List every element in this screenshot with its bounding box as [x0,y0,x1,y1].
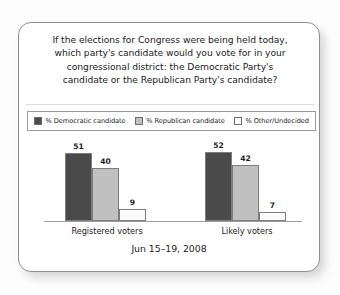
bar-set: 52 42 7 [205,141,286,221]
legend-swatch-icon [135,117,143,125]
poll-result-card: If the elections for Congress were being… [18,22,320,272]
bar-group-registered-voters: 51 40 9 Registered voters [65,141,169,221]
bar-group-likely-voters: 52 42 7 Likely voters [205,141,309,221]
category-label: Registered voters [47,226,167,236]
title-line: candidate or the Republican Party's cand… [33,73,307,86]
bar-republican [92,168,119,221]
title-line: If the elections for Congress were being… [33,33,307,46]
chart-baseline-axis [44,221,302,222]
page-background: If the elections for Congress were being… [0,0,340,295]
title-line: which party's candidate would you vote f… [33,46,307,59]
bar-value-label: 9 [113,198,153,207]
legend-item-democratic: % Democratic candidate [34,117,126,125]
title-line: congressional district: the Democratic P… [33,60,307,73]
survey-date-footer: Jun 15–19, 2008 [19,243,319,254]
legend-label: % Republican candidate [146,117,225,125]
bar-column: 9 [119,141,146,221]
bar-republican [232,165,259,221]
legend-label: % Other/Undecided [245,117,309,125]
bar-column: 40 [92,141,119,221]
bar-chart-plot-area: 51 40 9 Registered voters [19,141,319,233]
chart-legend: % Democratic candidate % Republican cand… [27,111,316,131]
legend-item-republican: % Republican candidate [135,117,225,125]
legend-label: % Democratic candidate [46,117,126,125]
bar-set: 51 40 9 [65,141,146,221]
bar-column: 52 [205,141,232,221]
legend-swatch-icon [34,117,42,125]
legend-item-other-undecided: % Other/Undecided [234,117,309,125]
bar-column: 51 [65,141,92,221]
bar-value-label: 7 [253,201,293,210]
poll-question-title: If the elections for Congress were being… [33,33,307,86]
bar-other-undecided [119,209,146,221]
header-divider [26,104,314,105]
legend-swatch-icon [234,117,242,125]
category-label: Likely voters [187,226,307,236]
bar-column: 7 [259,141,286,221]
bar-other-undecided [259,212,286,221]
